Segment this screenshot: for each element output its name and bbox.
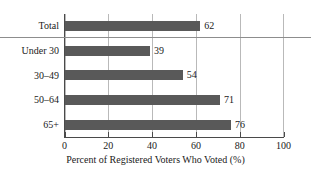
bar-value-total: 62: [200, 21, 214, 31]
category-label-50-64: 50–64: [0, 95, 59, 105]
plot-area: 62 39 54 71 76: [65, 14, 284, 137]
bar-row-30-49: 54: [65, 63, 284, 88]
bar-row-65-plus: 76: [65, 112, 284, 137]
bar-value-65-plus: 76: [231, 120, 245, 130]
category-label-30-49: 30–49: [0, 71, 59, 81]
bar-30-49: [65, 70, 183, 80]
x-tick-label-20: 20: [88, 140, 128, 151]
x-tick-label-0: 0: [45, 140, 85, 151]
bar-under-30: [65, 46, 150, 56]
bar-chart: 62 39 54 71 76 Total Under 30 30–49 50–6…: [0, 0, 311, 173]
tick-mark-40: [152, 132, 153, 137]
tick-mark-60: [196, 132, 197, 137]
category-label-under-30: Under 30: [0, 46, 59, 56]
x-tick-label-80: 80: [220, 140, 260, 151]
category-label-total: Total: [0, 21, 59, 31]
bar-value-50-64: 71: [220, 95, 234, 105]
x-tick-label-100: 100: [264, 140, 304, 151]
category-label-65-plus: 65+: [0, 120, 59, 130]
tick-mark-80: [240, 132, 241, 137]
y-axis-line: [64, 14, 65, 138]
x-tick-label-60: 60: [176, 140, 216, 151]
bar-value-30-49: 54: [183, 70, 197, 80]
x-axis-line: [64, 137, 284, 138]
bar-row-total: 62: [65, 14, 284, 39]
tick-mark-20: [108, 132, 109, 137]
tick-mark-0: [65, 132, 66, 137]
x-axis-title: Percent of Registered Voters Who Voted (…: [0, 154, 311, 166]
x-tick-label-40: 40: [132, 140, 172, 151]
tick-mark-100: [284, 132, 285, 137]
bar-50-64: [65, 95, 221, 105]
bar-row-under-30: 39: [65, 39, 284, 64]
bar-row-50-64: 71: [65, 88, 284, 113]
total-separator-line: [0, 37, 311, 38]
bar-value-under-30: 39: [150, 46, 164, 56]
bar-total: [65, 21, 201, 31]
plot-right-border: [283, 14, 284, 138]
bar-65-plus: [65, 120, 231, 130]
